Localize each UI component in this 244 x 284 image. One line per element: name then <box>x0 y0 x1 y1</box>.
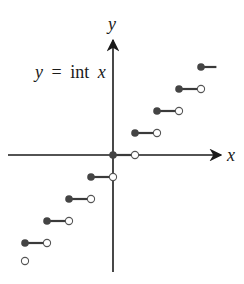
open-endpoint <box>175 107 182 114</box>
closed-endpoint <box>197 63 205 71</box>
open-endpoint <box>21 257 28 264</box>
x-axis-label: x <box>226 145 235 165</box>
closed-endpoint <box>175 85 183 93</box>
closed-endpoint <box>87 173 95 181</box>
closed-endpoint <box>65 195 73 203</box>
open-endpoint <box>197 85 204 92</box>
closed-endpoint <box>21 239 29 247</box>
open-endpoint <box>153 129 160 136</box>
function-label: y = int x <box>33 62 106 82</box>
open-endpoint <box>109 173 116 180</box>
closed-endpoint <box>43 217 51 225</box>
closed-endpoint <box>131 129 139 137</box>
open-endpoint <box>43 239 50 246</box>
closed-endpoint <box>109 151 117 159</box>
open-endpoint <box>65 217 72 224</box>
step-segments <box>21 63 216 264</box>
open-endpoint <box>131 151 138 158</box>
closed-endpoint <box>153 107 161 115</box>
y-axis-label: y <box>106 14 116 34</box>
open-endpoint <box>87 195 94 202</box>
step-function-chart: x y y = int x <box>0 0 244 284</box>
